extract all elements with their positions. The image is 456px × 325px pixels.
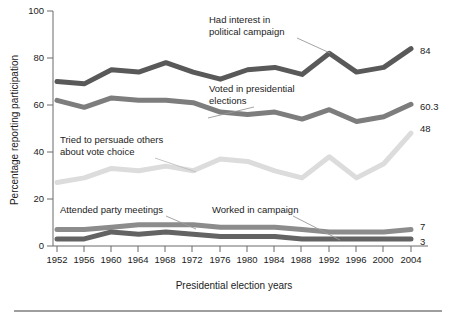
annotation-had-interest-leader [297,38,330,53]
x-axis-title: Presidential election years [176,280,293,291]
end-label-voted-presidential: 60.3 [420,101,439,112]
x-tick-label-2004: 2004 [400,254,421,265]
annotation-voted-line-1: Voted in presidential [209,83,295,94]
x-tick-label-1972: 1972 [181,254,202,265]
x-tick-label-1968: 1968 [154,254,175,265]
x-tick-label-1952: 1952 [46,254,67,265]
annotation-worked-label: Worked in campaign [212,204,298,215]
end-label-worked-campaign: 3 [420,236,425,247]
annotation-attended-label: Attended party meetings [60,204,163,215]
y-tick-label-0: 0 [39,240,44,251]
annotation-voted-line-2: elections [209,95,247,106]
annotation-had-interest-line-2: political campaign [209,26,285,37]
x-axis: 1952 1956 1960 1964 1968 1972 1976 1980 … [46,246,428,291]
participation-line-chart: 100 80 60 40 20 0 Percentage reporting p… [0,0,456,325]
y-tick-label-100: 100 [28,5,44,16]
y-tick-label-80: 80 [33,52,44,63]
x-tick-label-1980: 1980 [236,254,257,265]
chart-figure: 100 80 60 40 20 0 Percentage reporting p… [0,0,456,325]
x-tick-label-1988: 1988 [290,254,311,265]
x-tick-label-1964: 1964 [127,254,148,265]
annotation-persuade-line-1: Tried to persuade others [60,134,163,145]
annotation-persuade-line-2: about vote choice [60,146,134,157]
y-axis-title: Percentage reporting participation [9,55,20,205]
end-label-had-interest: 84 [420,45,431,56]
x-tick-label-1984: 1984 [263,254,284,265]
x-tick-label-1960: 1960 [100,254,121,265]
annotation-had-interest: Had interest in political campaign [209,14,330,53]
end-label-attended-meetings: 7 [420,221,425,232]
x-tick-label-1976: 1976 [209,254,230,265]
x-tick-label-1956: 1956 [73,254,94,265]
x-tick-label-1996: 1996 [345,254,366,265]
y-axis: 100 80 60 40 20 0 Percentage reporting p… [9,5,53,251]
y-tick-label-40: 40 [33,146,44,157]
y-tick-label-20: 20 [33,193,44,204]
series-line-had-interest [57,49,411,84]
end-label-tried-persuade: 48 [420,123,431,134]
series-end-labels: 84 60.3 48 7 3 [420,45,439,247]
x-tick-label-1992: 1992 [318,254,339,265]
annotation-had-interest-line-1: Had interest in [209,14,270,25]
x-tick-label-2000: 2000 [372,254,393,265]
y-tick-label-60: 60 [33,99,44,110]
x-ticks [57,246,411,252]
